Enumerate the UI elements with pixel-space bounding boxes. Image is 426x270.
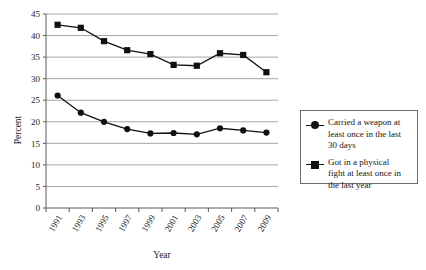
x-axis-title: Year bbox=[153, 250, 171, 260]
x-tick-label: 1991 bbox=[47, 213, 65, 234]
x-tick-label: 1997 bbox=[116, 213, 134, 234]
y-tick-label: 30 bbox=[31, 74, 41, 84]
x-axis-ticks bbox=[46, 208, 278, 212]
legend-item: Carried a weapon at least once in the la… bbox=[306, 117, 411, 152]
data-point-circle bbox=[240, 127, 246, 133]
legend-item: Got in a physical fight at least once in… bbox=[306, 157, 411, 192]
y-tick-label-group: 051015202530354045 bbox=[31, 9, 41, 213]
y-tick-label: 5 bbox=[36, 182, 41, 192]
data-point-square bbox=[240, 52, 246, 58]
x-tick-label: 1999 bbox=[139, 213, 157, 234]
legend-marker-square-icon bbox=[306, 159, 324, 171]
x-tick-label: 2007 bbox=[232, 213, 250, 234]
data-point-square bbox=[101, 38, 107, 44]
chart-figure: 051015202530354045 199119931995199719992… bbox=[0, 0, 426, 270]
y-tick-label: 15 bbox=[31, 139, 41, 149]
data-point-square bbox=[263, 69, 269, 75]
data-point-circle bbox=[124, 126, 130, 132]
y-tick-label: 35 bbox=[31, 52, 41, 62]
series-line bbox=[58, 95, 267, 134]
y-tick-label: 45 bbox=[31, 9, 41, 19]
y-tick-label: 40 bbox=[31, 31, 41, 41]
gridlines bbox=[46, 14, 278, 186]
data-point-circle bbox=[263, 129, 269, 135]
data-point-circle bbox=[147, 130, 153, 136]
data-point-circle bbox=[217, 125, 223, 131]
x-tick-label: 2005 bbox=[209, 213, 227, 234]
data-point-square bbox=[124, 47, 130, 53]
data-point-square bbox=[194, 63, 200, 69]
x-tick-label: 2001 bbox=[163, 213, 181, 234]
y-tick-label: 25 bbox=[31, 95, 41, 105]
data-point-square bbox=[217, 50, 223, 56]
y-tick-label: 0 bbox=[36, 203, 41, 213]
x-tick-label: 1995 bbox=[93, 213, 111, 234]
y-axis-title: Percent bbox=[13, 115, 23, 144]
x-tick-label: 1993 bbox=[70, 213, 88, 234]
data-point-circle bbox=[171, 130, 177, 136]
x-tick-label: 2009 bbox=[255, 213, 273, 234]
data-point-square bbox=[147, 51, 153, 57]
legend-marker-circle-icon bbox=[306, 119, 324, 131]
data-point-square bbox=[55, 22, 61, 28]
y-tick-label: 10 bbox=[31, 160, 41, 170]
data-point-circle bbox=[194, 131, 200, 137]
series-layer bbox=[55, 22, 270, 138]
data-point-square bbox=[78, 25, 84, 31]
chart-legend: Carried a weapon at least once in the la… bbox=[300, 110, 418, 184]
series-line bbox=[58, 25, 267, 72]
data-point-square bbox=[171, 62, 177, 68]
x-tick-label-group: 1991199319951997199920012003200520072009 bbox=[47, 213, 274, 234]
legend-item-label: Carried a weapon at least once in the la… bbox=[328, 117, 401, 152]
x-tick-label: 2003 bbox=[186, 213, 204, 234]
y-tick-label: 20 bbox=[31, 117, 41, 127]
data-point-circle bbox=[78, 110, 84, 116]
legend-item-label: Got in a physical fight at least once in… bbox=[328, 157, 401, 192]
data-point-circle bbox=[55, 92, 61, 98]
data-point-circle bbox=[101, 119, 107, 125]
